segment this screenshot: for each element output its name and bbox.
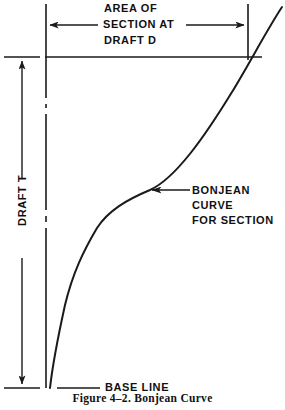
label-area-of: AREA OF bbox=[104, 2, 157, 15]
label-section-at: SECTION AT bbox=[100, 18, 177, 31]
bonjean-curve-figure: AREA OF SECTION AT DRAFT D DRAFT T BONJE… bbox=[0, 0, 285, 410]
label-curve: CURVE bbox=[192, 199, 233, 212]
label-draft-d-prefix: DRAFT bbox=[104, 34, 148, 46]
figure-caption: Figure 4–2. Bonjean Curve bbox=[0, 392, 285, 404]
label-draft-t-prefix: DRAFT bbox=[16, 182, 28, 226]
label-bonjean: BONJEAN bbox=[192, 184, 250, 197]
diagram-canvas bbox=[0, 0, 285, 410]
label-draft-d-symbol: D bbox=[148, 34, 157, 46]
label-draft-t: DRAFT T bbox=[16, 164, 29, 236]
bonjean-curve-path bbox=[50, 7, 282, 388]
label-draft-d: DRAFT D bbox=[104, 34, 156, 47]
label-for-section: FOR SECTION bbox=[192, 214, 274, 227]
label-draft-t-symbol: T bbox=[16, 175, 28, 182]
